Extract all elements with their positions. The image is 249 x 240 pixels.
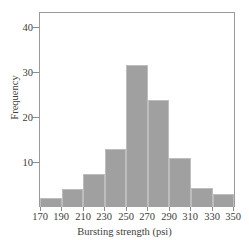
histogram-figure: Frequency 10 20 30 40 170 190 210 23 xyxy=(0,0,249,240)
x-axis-title: Bursting strength (psi) xyxy=(0,226,249,237)
bar-270-290 xyxy=(148,100,170,207)
x-tick-label-350: 350 xyxy=(220,212,246,223)
plot-area xyxy=(40,13,234,207)
bar-210-230 xyxy=(83,174,105,207)
bar-190-210 xyxy=(62,189,84,207)
bar-310-330 xyxy=(191,188,213,207)
y-axis-title: Frequency xyxy=(9,53,20,143)
bar-230-250 xyxy=(105,149,127,207)
y-tick-label-20: 20 xyxy=(11,113,33,124)
y-tick-label-40: 40 xyxy=(11,23,33,34)
bar-250-270 xyxy=(126,65,148,207)
bar-290-310 xyxy=(169,158,191,207)
bar-170-190 xyxy=(40,198,62,207)
bar-series xyxy=(40,13,234,207)
y-tick-label-10: 10 xyxy=(11,158,33,169)
y-tick-label-30: 30 xyxy=(11,68,33,79)
bar-330-350 xyxy=(213,194,235,207)
